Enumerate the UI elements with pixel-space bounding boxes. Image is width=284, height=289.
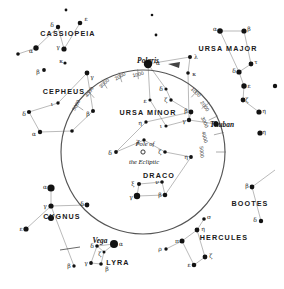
constellation-name-cepheus: CEPHEUS: [43, 87, 85, 96]
constellation-line: [40, 131, 72, 132]
star-dot: [56, 101, 59, 104]
greek-letter-label: γ: [182, 117, 186, 124]
pole-label-line2: the Ecliptic: [129, 158, 159, 165]
star-dot: [38, 130, 42, 134]
constellation-line: [166, 241, 182, 249]
star-dot: [195, 228, 200, 233]
greek-letter-label: β: [184, 107, 187, 114]
star-dot: [155, 34, 158, 37]
constellation-line: [148, 64, 166, 89]
star-dot: [137, 182, 141, 186]
constellation-line: [116, 122, 146, 152]
star-dot: [273, 84, 277, 88]
greek-letter-label: ε: [187, 261, 190, 268]
greek-letter-label: γ: [90, 73, 94, 80]
star-dot: [259, 219, 263, 223]
star-chart-precession: CASSIOPEIACEPHEUSURSA MAJORURSA MINORDRA…: [0, 0, 284, 289]
star-dot: [91, 109, 95, 113]
greek-letter-label: γ: [129, 193, 133, 200]
greek-letter-label: β: [158, 191, 161, 198]
greek-letter-label: δ: [90, 242, 94, 249]
star-dot: [151, 14, 154, 17]
star-dot: [236, 69, 241, 74]
greek-letter-label: ζ: [209, 252, 212, 259]
constellation-name-bootes: BOOTES: [232, 199, 269, 208]
star-dot: [203, 255, 208, 260]
star-dot: [65, 9, 68, 12]
star-dot: [85, 71, 90, 76]
star-dot: [99, 262, 103, 266]
greek-letter-label: ι: [51, 100, 53, 107]
constellation-line: [182, 230, 197, 241]
constellation-name-hercules: HERCULES: [200, 233, 248, 242]
greek-letter-label: β: [105, 265, 108, 272]
greek-letter-label: α: [213, 25, 217, 32]
greek-letter-label: δ: [50, 21, 54, 28]
star-dot: [16, 52, 20, 56]
greek-letter-label: α: [32, 130, 36, 137]
star-dot: [144, 120, 147, 123]
greek-letter-label: κ: [59, 57, 63, 64]
star-dot: [27, 110, 31, 114]
star-dot: [164, 87, 167, 90]
greek-letter-label: χ: [136, 137, 140, 144]
star-dot: [85, 203, 90, 208]
constellation-name-ursa-major: URSA MAJOR: [198, 44, 257, 53]
star-dot: [187, 118, 191, 122]
star-dot: [188, 55, 192, 59]
constellation-line: [91, 246, 97, 263]
greek-letter-label: ε: [84, 15, 87, 22]
star-dot: [114, 150, 118, 154]
greek-letter-label: η: [201, 225, 205, 232]
greek-letter-label: ξ: [131, 180, 134, 187]
greek-letter-label: ε: [247, 82, 250, 89]
star-dot: [180, 239, 185, 244]
constellation-line: [148, 64, 150, 100]
greek-letter-label: π: [175, 237, 179, 244]
star-dot: [61, 46, 66, 51]
constellation-name-cassiopeia: CASSIOPEIA: [40, 29, 95, 38]
greek-letter-label: ε: [143, 97, 146, 104]
constellation-name-lyra: LYRA: [106, 258, 129, 267]
star-dot: [95, 244, 99, 248]
greek-letter-label: δ: [232, 67, 236, 74]
star-dot: [42, 68, 46, 72]
star-dot: [70, 129, 74, 133]
star-dot: [148, 98, 151, 101]
star-dot: [163, 150, 167, 154]
greek-letter-label: α: [156, 59, 160, 66]
constellation-line: [252, 170, 275, 187]
greek-letter-label: β: [245, 182, 248, 189]
greek-letter-label: η: [262, 128, 266, 135]
star-dot: [63, 61, 66, 64]
greek-letter-label: γ: [43, 202, 47, 209]
star-dot: [103, 251, 106, 254]
year-tick: [214, 132, 224, 134]
greek-letter-label: ν: [155, 178, 159, 185]
star-dot: [89, 261, 93, 265]
star-dot: [256, 109, 261, 114]
star-dot: [48, 203, 53, 208]
greek-letter-label: δ: [253, 216, 257, 223]
star-dot: [169, 98, 172, 101]
star-dot: [110, 240, 118, 248]
greek-letter-label: β: [67, 262, 70, 269]
greek-letter-label: γ: [84, 259, 88, 266]
constellation-line: [72, 111, 93, 131]
greek-letter-label: σ: [207, 213, 211, 220]
greek-letter-label: δ: [108, 149, 112, 156]
greek-letter-label: ζ: [164, 96, 167, 103]
greek-letter-label: δ: [80, 200, 84, 207]
star-dot: [23, 226, 28, 231]
greek-letter-label: ζ: [158, 148, 161, 155]
star-dot: [250, 185, 255, 190]
greek-letter-label: α: [119, 240, 123, 247]
greek-letter-label: β: [247, 25, 250, 32]
constellation-line: [188, 57, 190, 73]
star-dot: [186, 71, 190, 75]
pole-of-ecliptic-marker: [141, 150, 145, 154]
greek-letter-label: δ: [22, 110, 26, 117]
star-dot: [33, 45, 38, 50]
greek-letter-label: λ: [194, 53, 198, 60]
greek-letter-label: η: [138, 119, 142, 126]
